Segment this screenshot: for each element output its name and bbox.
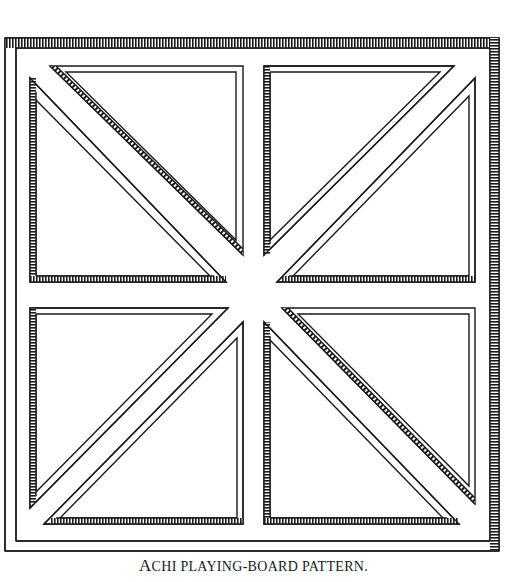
figure-caption: ACHI PLAYING-BOARD PATTERN. [0, 556, 507, 576]
triangle-tl-lower [30, 78, 226, 282]
triangle-bl-lower [44, 322, 243, 524]
triangle-bl-upper [30, 308, 228, 508]
outer-frame [5, 38, 499, 551]
triangle-tr-upper [264, 66, 454, 255]
achi-board-illustration [0, 0, 507, 582]
caption-initial: A [139, 556, 152, 575]
triangle-tl-upper [50, 66, 243, 255]
triangle-br-lower [264, 322, 459, 524]
triangle-tr-lower [277, 78, 475, 282]
triangle-br-upper [282, 308, 475, 504]
caption-text: CHI PLAYING-BOARD PATTERN. [152, 559, 368, 574]
